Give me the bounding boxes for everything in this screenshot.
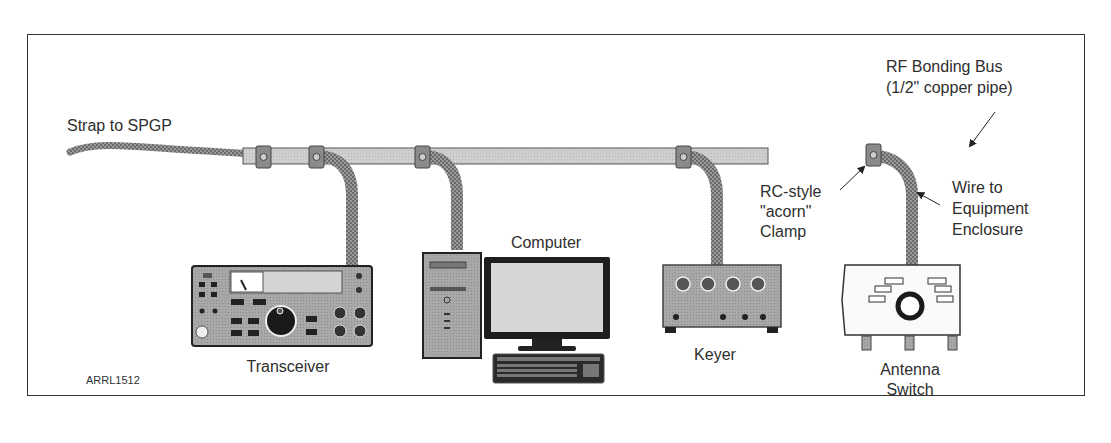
keyer-label: Keyer xyxy=(694,345,736,365)
wire-label-line3: Enclosure xyxy=(952,220,1023,240)
wire-label-line1: Wire to xyxy=(952,178,1003,198)
wire-keyer xyxy=(683,156,717,265)
bus-label-line2: (1/2" copper pipe) xyxy=(886,78,1013,98)
computer-label: Computer xyxy=(511,233,581,253)
bus-label-line1: RF Bonding Bus xyxy=(886,57,1003,77)
transceiver-icon xyxy=(192,266,372,346)
antenna-switch-label-line2: Switch xyxy=(886,380,933,400)
wire-transceiver xyxy=(316,156,352,265)
figure-code: ARRL1512 xyxy=(86,374,140,386)
clamp-label-line2: "acorn" xyxy=(760,202,811,222)
bus-leader xyxy=(970,112,995,146)
wire-antenna-switch xyxy=(873,156,912,265)
wire-leader xyxy=(918,193,940,205)
keyer-icon xyxy=(663,265,781,333)
antenna-switch-label-line1: Antenna xyxy=(880,360,940,380)
clamp-leader xyxy=(840,167,864,190)
antenna-switch-icon xyxy=(842,265,960,350)
clamp-label-line1: RC-style xyxy=(760,182,821,202)
strap-label: Strap to SPGP xyxy=(67,116,172,136)
strap-to-spgp xyxy=(70,145,262,155)
transceiver-label: Transceiver xyxy=(247,357,330,377)
wire-label-line2: Equipment xyxy=(952,199,1029,219)
clamp-label-line3: Clamp xyxy=(760,222,806,242)
computer-icon xyxy=(423,253,610,383)
wire-computer xyxy=(423,156,457,250)
